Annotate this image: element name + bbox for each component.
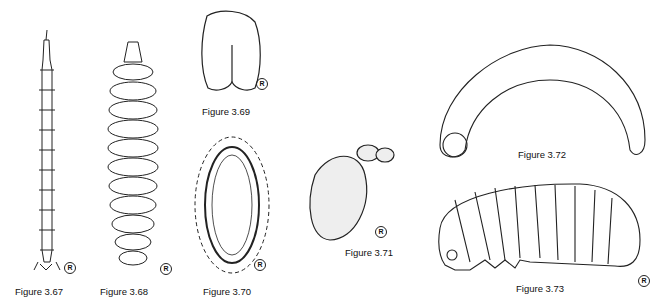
figure-caption: Figure 3.71 (345, 247, 393, 258)
figure-caption: Figure 3.72 (518, 149, 566, 160)
copyright-mark-icon: R (375, 226, 387, 238)
copyright-mark-icon: R (160, 263, 172, 275)
figure-caption: Figure 3.67 (15, 286, 63, 297)
copyright-mark-icon: R (254, 259, 266, 271)
copyright-mark-icon: R (638, 275, 650, 287)
figure-caption: Figure 3.70 (203, 286, 251, 297)
copyright-mark-icon: R (256, 78, 268, 90)
figure-caption: Figure 3.73 (516, 283, 564, 294)
figure-caption: Figure 3.69 (202, 106, 250, 117)
figure-caption: Figure 3.68 (100, 286, 148, 297)
copyright-mark-icon: R (64, 262, 76, 274)
lateral-larva-illustration (0, 0, 1, 1)
